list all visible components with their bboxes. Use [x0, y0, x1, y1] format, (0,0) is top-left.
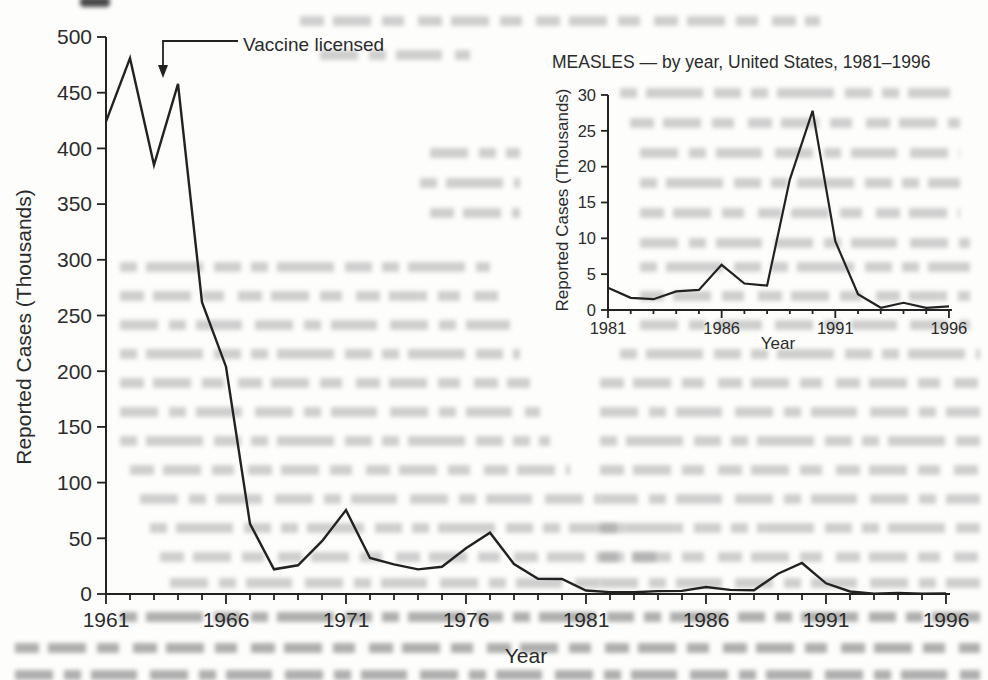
tick-label: 450	[57, 81, 92, 104]
tick-label: 0	[587, 301, 596, 319]
tick-label: 5	[587, 265, 596, 283]
tick-label: 1971	[323, 608, 370, 631]
tick-label: 1981	[590, 319, 627, 337]
main-chart-axes	[106, 37, 950, 594]
main-y-axis-title: Reported Cases (Thousands)	[12, 189, 36, 464]
inset-y-ticks: 051015202530	[578, 86, 608, 319]
annotation-arrowhead	[158, 65, 168, 78]
charts-canvas: 0501001502002503003504004505001961196619…	[0, 0, 988, 680]
tick-label: 1981	[563, 608, 610, 631]
tick-label: 100	[57, 471, 92, 494]
tick-label: 300	[57, 248, 92, 271]
inset-x-axis-title: Year	[761, 334, 795, 354]
tick-label: 10	[578, 229, 596, 247]
inset-chart-title: MEASLES — by year, United States, 1981–1…	[552, 52, 930, 73]
tick-label: 1986	[703, 319, 740, 337]
tick-label: 50	[69, 527, 92, 550]
tick-label: 20	[578, 157, 596, 175]
inset-chart: 0510152025301981198619911996	[578, 86, 968, 337]
main-y-ticks: 050100150200250300350400450500	[57, 25, 106, 605]
tick-label: 30	[578, 86, 596, 104]
tick-label: 400	[57, 137, 92, 160]
annotation-arrow-line	[163, 41, 238, 66]
vaccine-licensed-annotation: Vaccine licensed	[243, 34, 384, 56]
scanned-page: 0501001502002503003504004505001961196619…	[0, 0, 988, 680]
tick-label: 1986	[683, 608, 730, 631]
inset-y-axis-title: Reported Cases (Thousands)	[553, 88, 573, 311]
tick-label: 25	[578, 122, 596, 140]
inset-chart-axes	[608, 95, 952, 310]
tick-label: 0	[80, 582, 92, 605]
tick-label: 250	[57, 304, 92, 327]
tick-label: 200	[57, 360, 92, 383]
tick-label: 1976	[443, 608, 490, 631]
tick-label: 500	[57, 25, 92, 48]
main-x-ticks: 19611966197119761981198619911996	[83, 594, 970, 631]
tick-label: 350	[57, 192, 92, 215]
inset-series-line	[608, 111, 949, 308]
tick-label: 1991	[817, 319, 854, 337]
tick-label: 1996	[931, 319, 968, 337]
inset-x-ticks: 1981198619911996	[590, 310, 968, 337]
tick-label: 1961	[83, 608, 130, 631]
tick-label: 1966	[203, 608, 250, 631]
tick-label: 1996	[923, 608, 970, 631]
tick-label: 150	[57, 415, 92, 438]
tick-label: 1991	[803, 608, 850, 631]
main-x-axis-title: Year	[505, 644, 547, 668]
tick-label: 15	[578, 193, 596, 211]
